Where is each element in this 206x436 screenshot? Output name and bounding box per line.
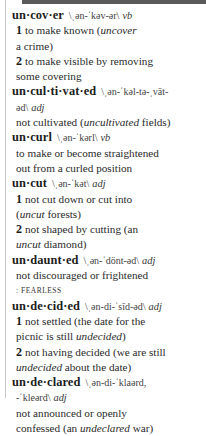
- sense-2: 2not having decided (we are still: [12, 345, 204, 360]
- example-word: uncultivated: [84, 116, 139, 128]
- pronunciation: \ˌən-ˈkət\: [52, 178, 89, 189]
- part-of-speech: adj: [149, 301, 162, 312]
- part-of-speech: adj: [31, 102, 44, 113]
- headword: un·curl: [12, 130, 52, 144]
- part-of-speech: vb: [122, 10, 132, 21]
- part-of-speech: adj: [53, 392, 66, 403]
- pronunciation: \ˌən-ˈkərl\: [57, 132, 98, 143]
- entry-undeclared: un·de·clared\ˌən-di-ˈklaərd, -ˈkleərd\ad…: [12, 375, 204, 436]
- example-word: undecided: [76, 330, 122, 342]
- synonym: : FEARLESS: [12, 283, 204, 298]
- entry-undaunted: un·daunt·ed\ˌən-ˈdönt-əd\adj not discour…: [12, 253, 204, 299]
- sense-1: 1not cut down or cut into: [12, 192, 204, 207]
- left-margin-rule: [5, 0, 6, 398]
- headword: un·de·clared: [12, 375, 80, 389]
- top-rule: [22, 0, 206, 4]
- sense-1: 1to make known (uncover: [12, 23, 204, 38]
- entry-uncultivated: un·cul·ti·vat·ed\ˌən-ˈkəl-tə-ˌvāt- əd\ad…: [12, 84, 204, 130]
- pronunciation: \ˌən-di-ˈsīd-əd\: [85, 301, 146, 312]
- pronunciation: \ˌən-ˈkəl-tə-ˌvāt-: [101, 86, 168, 97]
- part-of-speech: adj: [92, 178, 105, 189]
- dictionary-page: un·cov·er\ˌən-ˈkəv-ər\vb 1to make known …: [12, 8, 204, 436]
- entry-uncut: un·cut\ˌən-ˈkət\adj 1not cut down or cut…: [12, 176, 204, 252]
- example-word: uncut: [20, 208, 45, 220]
- example-word: undecided: [16, 361, 62, 373]
- entry-uncover: un·cov·er\ˌən-ˈkəv-ər\vb 1to make known …: [12, 8, 204, 84]
- sense-2: 2to make visible by removing: [12, 54, 204, 69]
- pronunciation: \ˌən-ˈdönt-əd\: [84, 255, 140, 266]
- sense-1: 1not settled (the date for the: [12, 314, 204, 329]
- entry-uncurl: un·curl\ˌən-ˈkərl\vb to make or become s…: [12, 130, 204, 176]
- headword: un·de·cid·ed: [12, 299, 80, 313]
- headword: un·cul·ti·vat·ed: [12, 84, 96, 98]
- example-word: uncover: [101, 24, 137, 36]
- part-of-speech: vb: [101, 132, 111, 143]
- example-word: uncut: [16, 238, 41, 250]
- pronunciation: \ˌən-ˈkəv-ər\: [69, 10, 120, 21]
- pronunciation: \ˌən-di-ˈklaərd,: [85, 377, 146, 388]
- headword: un·daunt·ed: [12, 253, 79, 267]
- entry-undecided: un·de·cid·ed\ˌən-di-ˈsīd-əd\adj 1not set…: [12, 299, 204, 375]
- definition: not discouraged or frightened: [12, 268, 204, 283]
- headword: un·cut: [12, 176, 47, 190]
- definition: not cultivated (uncultivated fields): [12, 115, 204, 130]
- definition: not announced or openly: [12, 406, 204, 421]
- sense-2: 2not shaped by cutting (an: [12, 222, 204, 237]
- example-word: undeclared: [80, 422, 130, 434]
- headword: un·cov·er: [12, 8, 64, 22]
- definition: to make or become straightened: [12, 146, 204, 161]
- part-of-speech: adj: [142, 255, 155, 266]
